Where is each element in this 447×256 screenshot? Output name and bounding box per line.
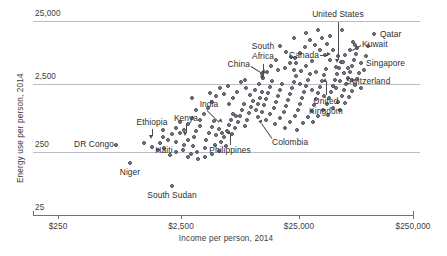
data-point [208, 91, 212, 95]
data-point [276, 68, 280, 72]
data-point [299, 69, 303, 73]
data-point [174, 126, 178, 130]
data-point [150, 145, 154, 149]
data-point [301, 121, 305, 125]
annotation-uk-line2: Kingdom [309, 107, 343, 117]
xtick-250 [58, 215, 59, 219]
data-point [249, 105, 253, 109]
arrowhead-philippines [227, 130, 231, 134]
gridline-25000 [33, 21, 420, 22]
data-point [186, 138, 190, 142]
data-point [354, 52, 358, 56]
data-point [304, 84, 308, 88]
data-point [322, 73, 326, 77]
data-point [303, 45, 307, 49]
data-point [347, 95, 351, 99]
data-point [218, 86, 222, 90]
data-point [350, 89, 354, 93]
xtick-2500 [181, 215, 182, 219]
data-point [288, 92, 292, 96]
ytick-label-25: 25 [35, 203, 44, 212]
data-point [203, 155, 207, 159]
xtick-label-250000: $250,000 [396, 222, 431, 231]
data-point [294, 61, 298, 65]
annotation-canada: Canada [289, 51, 319, 61]
annotation-ethiopia: Ethiopia [136, 118, 167, 128]
data-point [292, 36, 296, 40]
data-point [254, 108, 258, 112]
data-point [286, 98, 290, 102]
data-point [227, 102, 231, 106]
data-point [191, 144, 195, 148]
x-axis-line [33, 215, 414, 216]
data-point [170, 184, 174, 188]
data-point [283, 66, 287, 70]
data-point [251, 99, 255, 103]
data-point [269, 64, 273, 68]
data-point [343, 53, 347, 57]
data-point [248, 93, 252, 97]
data-point [194, 129, 198, 133]
leader-united-states [338, 22, 339, 60]
data-point [304, 31, 308, 35]
data-point [290, 86, 294, 90]
annotation-dr-congo: DR Congo [74, 140, 114, 150]
data-point [268, 112, 272, 116]
data-point [302, 90, 306, 94]
annotation-india: India [200, 100, 219, 110]
data-point [231, 96, 235, 100]
data-point [262, 103, 266, 107]
data-point [195, 150, 199, 154]
data-point [258, 96, 262, 100]
data-point [203, 146, 207, 150]
data-point [278, 44, 282, 48]
data-point [210, 125, 214, 129]
data-point [341, 60, 345, 64]
data-point [364, 54, 368, 58]
arrowhead-kenya [183, 132, 187, 136]
data-point [219, 140, 223, 144]
data-point [238, 114, 242, 118]
data-point [158, 141, 162, 145]
data-point [202, 112, 206, 116]
annotation-switzerland: Switzerland [346, 77, 390, 87]
data-point [318, 85, 322, 89]
data-point [244, 86, 248, 90]
data-point [296, 108, 300, 112]
data-point [274, 58, 278, 62]
data-point [266, 91, 270, 95]
data-point [342, 88, 346, 92]
annotation-philippines: Philippines [209, 146, 251, 156]
arrowhead-south-africa [260, 76, 264, 80]
data-point [334, 86, 338, 90]
data-point [304, 64, 308, 68]
data-point [243, 78, 247, 82]
ytick-label-25000: 25,000 [35, 9, 61, 18]
data-point [220, 131, 224, 135]
data-point [264, 118, 268, 122]
data-point [272, 106, 276, 110]
data-point [308, 72, 312, 76]
data-point [292, 80, 296, 84]
data-point [222, 135, 226, 139]
arrowhead-united-states [335, 59, 339, 63]
data-point [226, 84, 230, 88]
data-point [357, 71, 361, 75]
x-axis-cap-left [33, 211, 34, 216]
data-point [196, 157, 200, 161]
data-point [338, 79, 342, 83]
data-point [240, 108, 244, 112]
data-point [178, 131, 182, 135]
data-point [182, 128, 186, 132]
annotation-haiti: Haiti [155, 146, 172, 156]
data-point [342, 71, 346, 75]
annotation-kenya: Kenya [174, 114, 198, 124]
data-point [257, 82, 261, 86]
ytick-label-2500: 2,500 [35, 72, 56, 81]
data-point [181, 148, 185, 152]
data-point [217, 127, 221, 131]
xtick-label-250: $250 [49, 222, 68, 231]
data-point [161, 135, 165, 139]
data-point [166, 138, 170, 142]
data-point [331, 48, 335, 52]
